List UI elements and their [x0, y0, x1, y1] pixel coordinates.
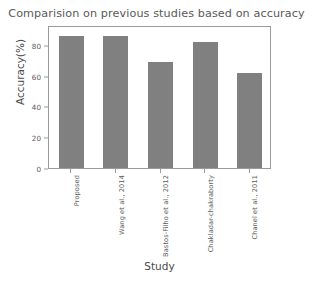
- y-tick-label: 60: [32, 72, 41, 81]
- x-tick-label: Wang et al., 2014: [118, 175, 126, 235]
- x-tick-mark: [115, 169, 116, 173]
- bar: [193, 42, 218, 168]
- x-tick-label: Proposed: [73, 175, 81, 206]
- bar: [59, 36, 84, 168]
- x-axis-ticks: ProposedWang et al., 2014Bastos-Filho et…: [48, 169, 271, 259]
- bar-chart-figure: Comparision on previous studies based on…: [0, 0, 313, 286]
- y-tick-label: 0: [36, 165, 41, 174]
- plot-area: [49, 27, 270, 168]
- chart-title: Comparision on previous studies based on…: [0, 7, 313, 20]
- x-tick-label: Chakladar-chakraborty: [207, 175, 215, 252]
- bar: [103, 36, 128, 168]
- plot-frame: [48, 26, 271, 169]
- x-tick-label: Chanel et al., 2011: [251, 175, 259, 240]
- bar: [148, 62, 173, 168]
- x-tick-label: Bastos-Filho et al., 2012: [162, 175, 170, 257]
- y-tick-label: 40: [32, 103, 41, 112]
- x-tick-mark: [204, 169, 205, 173]
- bar: [237, 73, 262, 168]
- x-tick-mark: [70, 169, 71, 173]
- y-tick-label: 20: [32, 134, 41, 143]
- x-tick-mark: [249, 169, 250, 173]
- x-tick-mark: [160, 169, 161, 173]
- x-axis-label: Study: [48, 260, 271, 272]
- y-axis-ticks: 020406080: [0, 26, 48, 169]
- y-tick-label: 80: [32, 41, 41, 50]
